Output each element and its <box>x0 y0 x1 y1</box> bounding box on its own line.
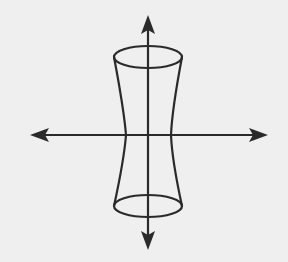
surface-right-edge <box>171 57 182 206</box>
surface-left-edge <box>114 57 126 206</box>
hyperboloid-diagram <box>0 0 288 262</box>
